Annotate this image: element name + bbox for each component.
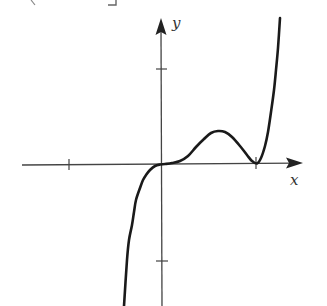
clipped-bracket-fragment <box>108 0 116 5</box>
x-axis-label: x <box>290 171 299 189</box>
clipped-paren-fragment <box>31 0 35 5</box>
y-axis <box>161 30 162 306</box>
function-graph: x y <box>0 0 327 306</box>
y-axis-label: y <box>171 14 181 32</box>
